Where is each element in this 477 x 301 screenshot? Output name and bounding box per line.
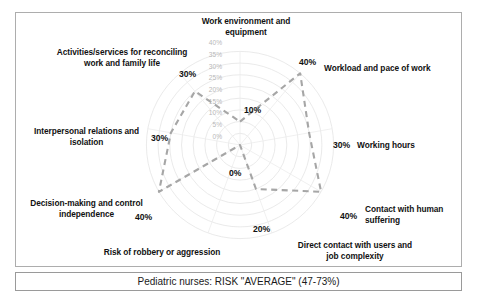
value-label-direct-contact-users: 20% xyxy=(253,224,270,234)
axis-label-workload-pace: Workload and pace of work xyxy=(324,63,459,74)
axis-label-work-environment: Work environment and equipment xyxy=(191,16,301,37)
axis-label-direct-contact-users: Direct contact with users and job comple… xyxy=(291,240,419,261)
chart-caption-text: Pediatric nurses: RISK "AVERAGE" (47-73%… xyxy=(138,276,340,287)
tick-label-30: 30% xyxy=(200,63,222,71)
tick-label-35: 35% xyxy=(200,51,222,59)
value-label-risk-robbery: 0% xyxy=(229,168,241,178)
axis-label-interpersonal-relations: Interpersonal relations and isolation xyxy=(21,126,152,147)
tick-label-20: 20% xyxy=(200,86,222,94)
value-label-activities-services: 30% xyxy=(179,69,196,79)
radar-chart-figure: 40% 35% 30% 25% 20% 15% 10% 5% 0% Work e… xyxy=(0,0,477,301)
value-label-work-environment: 10% xyxy=(244,105,261,115)
tick-label-25: 25% xyxy=(200,74,222,82)
axis-label-decision-making: Decision-making and control independence xyxy=(24,198,149,219)
axis-label-risk-robbery: Risk of robbery or aggression xyxy=(94,247,230,258)
value-label-contact-human-suffering: 40% xyxy=(340,211,357,221)
value-label-workload-pace: 40% xyxy=(299,57,316,67)
tick-label-15: 15% xyxy=(200,98,222,106)
value-label-decision-making: 40% xyxy=(135,212,152,222)
tick-label-0: 0% xyxy=(200,133,222,141)
value-label-working-hours: 30% xyxy=(333,140,350,150)
tick-label-5: 5% xyxy=(200,121,222,129)
axis-label-activities-services: Activities/services for reconciling work… xyxy=(56,47,188,68)
value-label-interpersonal-relations: 30% xyxy=(151,133,168,143)
chart-plot-area: 40% 35% 30% 25% 20% 15% 10% 5% 0% Work e… xyxy=(15,12,462,267)
tick-label-40: 40% xyxy=(200,39,222,47)
axis-label-contact-human-suffering: Contact with human suffering xyxy=(365,204,461,225)
axis-label-working-hours: Working hours xyxy=(357,140,452,151)
chart-caption-box: Pediatric nurses: RISK "AVERAGE" (47-73%… xyxy=(15,272,462,291)
tick-label-10: 10% xyxy=(200,109,222,117)
radar-axis-spokes xyxy=(148,51,332,233)
